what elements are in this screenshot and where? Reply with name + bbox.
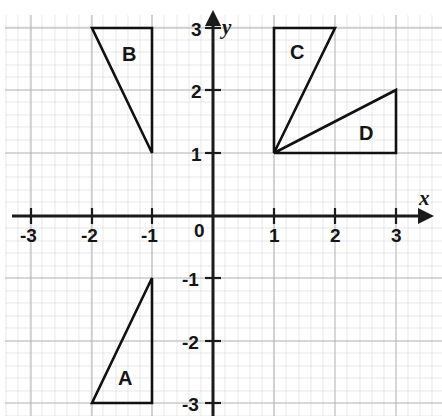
shape-label-a: A [118, 368, 132, 388]
y-tick-label-neg1: -1 [182, 270, 199, 289]
shape-layer [0, 0, 442, 416]
x-axis-label: x [419, 188, 430, 209]
y-tick-label-pos1: 1 [191, 145, 202, 164]
shape-label-b: B [122, 44, 136, 64]
origin-label: 0 [194, 221, 205, 240]
x-tick-label-pos1: 1 [269, 226, 280, 245]
y-tick-label-neg3: -3 [182, 395, 199, 414]
x-tick-label-neg2: -2 [81, 226, 98, 245]
x-axis [12, 208, 434, 224]
x-tick-label-neg1: -1 [141, 226, 158, 245]
y-tick-label-neg2: -2 [182, 333, 199, 352]
x-tick-label-neg3: -3 [20, 226, 37, 245]
triangle-c [274, 28, 335, 153]
y-tick-label-pos3: 3 [191, 20, 202, 39]
y-axis [205, 10, 221, 416]
x-axis-arrowhead [418, 208, 434, 224]
y-axis-arrowhead [205, 10, 221, 26]
coordinate-plane-figure: -3 -2 -1 1 2 3 3 2 1 -1 -2 -3 0 x y A B … [0, 0, 442, 416]
x-tick-label-pos3: 3 [391, 226, 402, 245]
triangle-d [274, 90, 396, 153]
y-tick-label-pos2: 2 [191, 82, 202, 101]
x-tick-label-pos2: 2 [330, 226, 341, 245]
shape-label-d: D [359, 123, 373, 143]
shape-label-c: C [290, 42, 304, 62]
y-axis-label: y [222, 17, 231, 38]
